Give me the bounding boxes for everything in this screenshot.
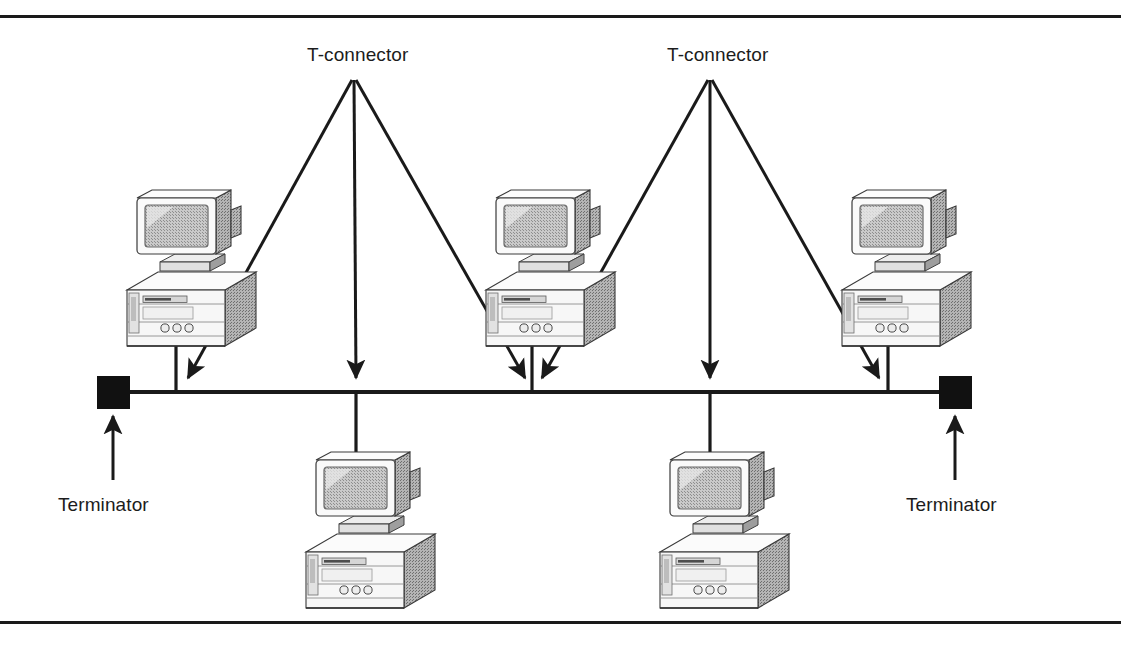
t-connector-left-ray-2: [354, 80, 356, 378]
drop-lines: [176, 330, 888, 474]
label-t-connector-left: T-connector: [307, 44, 408, 66]
label-terminator-right: Terminator: [906, 494, 997, 516]
label-terminator-left: Terminator: [58, 494, 149, 516]
computer-bottom-left: [306, 452, 435, 608]
label-t-connector-right: T-connector: [667, 44, 768, 66]
computer-top-left: [127, 190, 256, 346]
topology-canvas: [0, 0, 1121, 645]
network-topology-figure: T-connector T-connector Terminator Termi…: [0, 0, 1121, 645]
computer-bottom-right: [660, 452, 789, 608]
computer-top-right: [842, 190, 971, 346]
terminator-right-square: [939, 376, 972, 409]
terminator-left-square: [97, 376, 130, 409]
computer-top-middle: [486, 190, 615, 346]
terminator-pointers: [113, 416, 955, 480]
